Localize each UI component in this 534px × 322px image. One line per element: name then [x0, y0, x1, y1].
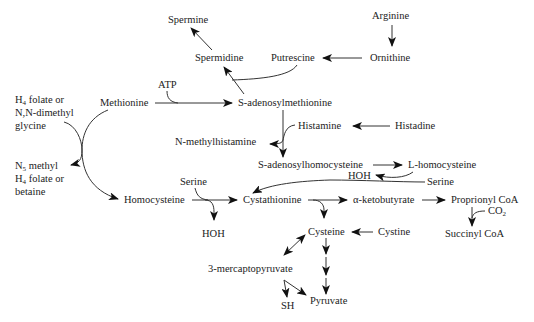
- node-s-adenosylmethionine: S-adenosylmethionine: [238, 97, 332, 108]
- node-n-methylhistamine: N-methylhistamine: [175, 136, 256, 147]
- node-putrescine: Putrescine: [271, 52, 315, 63]
- node-hoh-top: HOH: [348, 170, 371, 181]
- node-arginine: Arginine: [372, 10, 409, 21]
- arrow-cystathionine-cysteine: [313, 200, 324, 218]
- arrow-spermidine-spermine: [191, 28, 212, 50]
- arrow-putrescine-curve: [232, 65, 297, 80]
- node-nn-dimethyl: N,N-dimethyl: [15, 107, 74, 118]
- pathway-canvas: Spermine Spermidine Putrescine Ornithine…: [0, 0, 534, 322]
- node-l-homocysteine: L-homocysteine: [408, 159, 477, 170]
- arrow-cysteine-mercaptopyruvate: [284, 235, 305, 255]
- node-betaine: betaine: [15, 186, 46, 197]
- node-co2: CO2: [488, 205, 507, 218]
- node-pyruvate: Pyruvate: [310, 295, 348, 306]
- node-serine-right: Serine: [427, 176, 454, 187]
- node-n5-methyl: N5 methyl: [15, 160, 58, 173]
- arrow-mercaptopyruvate-sh: [284, 280, 287, 297]
- node-cystine: Cystine: [378, 226, 410, 237]
- arrow-co2-hook: [472, 211, 485, 218]
- node-alpha-ketobutyrate: α-ketobutyrate: [353, 194, 415, 205]
- node-h4-folate-top: H4 folate or: [15, 94, 64, 107]
- node-histadine: Histadine: [395, 120, 436, 131]
- node-ornithine: Ornithine: [370, 52, 411, 63]
- arrow-serine-cystathionine: [253, 180, 425, 193]
- node-glycine: glycine: [15, 120, 46, 131]
- node-hoh-bottom: HOH: [202, 228, 225, 239]
- arrow-cycle-methionine-homocysteine: [82, 110, 118, 199]
- node-sh: SH: [281, 300, 295, 311]
- arrow-lhomocysteine-hoh: [376, 172, 413, 177]
- arrow-mercaptopyruvate-pyruvate: [284, 280, 306, 295]
- pathway-diagram: Spermine Spermidine Putrescine Ornithine…: [0, 0, 534, 322]
- node-proprionyl-coa: Proprionyl CoA: [451, 194, 519, 205]
- arrow-glycine-n5methyl: [64, 122, 82, 165]
- node-serine-left: Serine: [180, 176, 207, 187]
- node-methionine: Methionine: [100, 97, 149, 108]
- arrow-sam-spermidine: [224, 67, 244, 94]
- node-cystathionine: Cystathionine: [243, 194, 302, 205]
- arrow-serine-hook: [195, 188, 208, 200]
- node-spermine: Spermine: [168, 14, 209, 25]
- node-succinyl-coa: Succinyl CoA: [445, 228, 505, 239]
- node-histamine: Histamine: [298, 120, 341, 131]
- arrow-atp-hook: [167, 91, 178, 103]
- node-cysteine: Cysteine: [308, 226, 345, 237]
- node-3-mercaptopyruvate: 3-mercaptopyruvate: [208, 263, 293, 274]
- arrow-hoh-branch: [205, 200, 214, 220]
- node-atp: ATP: [158, 79, 177, 90]
- node-spermidine: Spermidine: [195, 52, 244, 63]
- node-s-adenosylhomocysteine: S-adenosylhomocysteine: [258, 159, 363, 170]
- node-h4-folate-bottom: H4 folate or: [15, 173, 64, 186]
- node-homocysteine: Homocysteine: [124, 194, 185, 205]
